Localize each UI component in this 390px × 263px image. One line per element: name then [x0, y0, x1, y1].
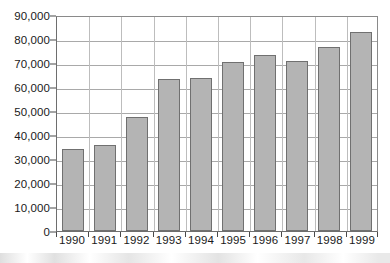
- bar-slot: [345, 17, 377, 231]
- bar-slot: [185, 17, 217, 231]
- x-tick-label: 1999: [346, 234, 378, 254]
- x-tick-label: 1998: [314, 234, 346, 254]
- y-tick-mark: [50, 64, 56, 65]
- y-tick-label: 10,000: [14, 202, 50, 214]
- y-tick-label: 30,000: [14, 154, 50, 166]
- bar: [62, 149, 84, 231]
- y-tick-mark: [50, 160, 56, 161]
- x-tick-label: 1997: [281, 234, 313, 254]
- x-tick-label: 1992: [120, 234, 152, 254]
- bar-slot: [313, 17, 345, 231]
- y-tick-mark: [50, 232, 56, 233]
- y-axis: 010,00020,00030,00040,00050,00060,00070,…: [0, 16, 50, 232]
- bar: [254, 55, 276, 231]
- y-tick-label: 40,000: [14, 130, 50, 142]
- bar: [222, 62, 244, 231]
- y-tick-mark: [50, 112, 56, 113]
- y-tick-label: 90,000: [14, 10, 50, 22]
- y-tick-mark: [50, 208, 56, 209]
- y-tick-mark: [50, 88, 56, 89]
- y-tick-label: 50,000: [14, 106, 50, 118]
- bar-slot: [153, 17, 185, 231]
- bar: [318, 47, 340, 231]
- bar-slot: [89, 17, 121, 231]
- bar-slot: [281, 17, 313, 231]
- x-tick-label: 1996: [249, 234, 281, 254]
- bar: [158, 79, 180, 231]
- y-tick-label: 60,000: [14, 82, 50, 94]
- y-tick-label: 20,000: [14, 178, 50, 190]
- bar-slot: [249, 17, 281, 231]
- bar: [286, 61, 308, 231]
- y-tick-mark: [50, 16, 56, 17]
- x-tick-label: 1995: [217, 234, 249, 254]
- bar-slot: [217, 17, 249, 231]
- bar-chart-figure: 010,00020,00030,00040,00050,00060,00070,…: [0, 0, 390, 263]
- y-tick-mark: [50, 184, 56, 185]
- y-tick-mark: [50, 40, 56, 41]
- x-tick-label: 1993: [153, 234, 185, 254]
- x-tick-label: 1994: [185, 234, 217, 254]
- y-tick-label: 80,000: [14, 34, 50, 46]
- bar-slot: [121, 17, 153, 231]
- bar: [126, 117, 148, 231]
- bar: [190, 78, 212, 231]
- x-axis: 1990199119921993199419951996199719981999: [56, 234, 378, 254]
- bar-series: [57, 17, 377, 231]
- x-tick-label: 1991: [88, 234, 120, 254]
- x-tick-label: 1990: [56, 234, 88, 254]
- y-tick-mark: [50, 136, 56, 137]
- bar: [94, 145, 116, 231]
- bar-slot: [57, 17, 89, 231]
- y-tick-label: 70,000: [14, 58, 50, 70]
- bar: [350, 32, 372, 231]
- plot-area: [56, 16, 378, 232]
- scan-artifact: [0, 253, 390, 263]
